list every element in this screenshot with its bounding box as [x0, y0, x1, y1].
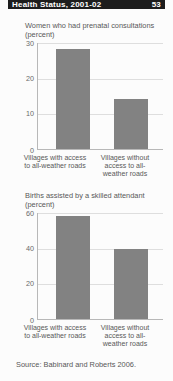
chart-1-bar-villages-without-roads: [114, 99, 148, 149]
chart-1-bar-villages-with-roads: [56, 49, 90, 149]
chart-2-gridline-60: [38, 213, 163, 214]
chart-2-plot-area: [37, 213, 163, 320]
figure-page: Health Status, 2001-02 53 Women who had …: [0, 0, 173, 381]
chart-1-plot-area: [37, 43, 163, 150]
page-header-number: 53: [152, 1, 161, 9]
page-header-band: Health Status, 2001-02 53: [8, 0, 165, 9]
chart-1-gridline-30: [38, 43, 163, 44]
chart-2-ytick-40: 40: [0, 244, 34, 253]
chart-2-bar-villages-without-roads: [114, 249, 148, 319]
page-header-title: Health Status, 2001-02: [12, 1, 101, 9]
chart-2-xlabel-villages-with-roads: Villages with access to all-weather road…: [23, 324, 87, 340]
chart-2-xlabel-villages-without-roads: Villages without access to all-weather r…: [93, 324, 157, 349]
source-note: Source: Babinard and Roberts 2006.: [16, 360, 136, 369]
chart-1-ytick-10: 10: [0, 109, 34, 118]
chart-2-unit-text: (percent): [25, 200, 55, 209]
chart-2-title: Births assisted by a skilled attendant (…: [25, 192, 165, 209]
chart-prenatal-consultations: Women who had prenatal consultations (pe…: [0, 22, 173, 182]
chart-1-title: Women who had prenatal consultations (pe…: [25, 22, 165, 39]
chart-2-ytick-20: 20: [0, 279, 34, 288]
chart-1-xlabel-villages-with-roads: Villages with access to all-weather road…: [23, 154, 87, 170]
chart-1-xlabel-villages-without-roads: Villages without access to all-weather r…: [93, 154, 157, 179]
chart-1-unit-text: (percent): [25, 30, 55, 39]
chart-skilled-attendant-births: Births assisted by a skilled attendant (…: [0, 192, 173, 352]
chart-1-ytick-20: 20: [0, 74, 34, 83]
chart-2-bar-villages-with-roads: [56, 216, 90, 319]
chart-1-ytick-30: 30: [0, 39, 34, 48]
chart-2-ytick-60: 60: [0, 209, 34, 218]
